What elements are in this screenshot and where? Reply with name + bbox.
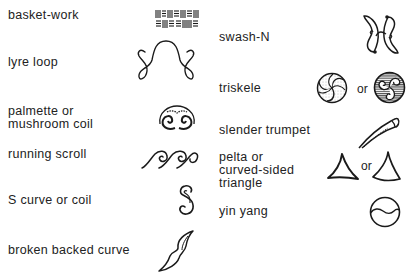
label-running-scroll: running scroll [8,148,87,161]
label-slender-trumpet: slender trumpet [219,124,310,137]
lyre-loop-icon [136,38,196,86]
triskele-stippled-icon [316,72,348,104]
broken-backed-curve-icon [158,230,194,272]
label-lyre-loop: lyre loop [8,56,58,69]
label-palmette-line2: mushroom coil [8,118,93,131]
connector-or-triskele: or [357,82,368,96]
label-basket-work: basket-work [8,9,79,22]
swash-n-icon [361,12,401,57]
label-pelta-line3: triangle [219,177,262,190]
s-curve-icon [177,183,197,217]
label-triskele: triskele [219,82,261,95]
slender-trumpet-icon [358,115,400,149]
label-yin-yang: yin yang [219,205,268,218]
cropped-caption-fragment [0,268,70,276]
running-scroll-icon [141,148,199,170]
pelta-left-icon [327,153,359,181]
basket-work-icon [155,9,199,29]
triskele-hatched-icon [373,71,406,104]
label-broken-backed-curve: broken backed curve [8,244,130,257]
label-swash-n: swash-N [219,31,270,44]
palmette-icon [157,104,197,132]
yin-yang-icon [369,196,401,228]
label-s-curve: S curve or coil [8,194,92,207]
pelta-right-icon [371,151,401,183]
